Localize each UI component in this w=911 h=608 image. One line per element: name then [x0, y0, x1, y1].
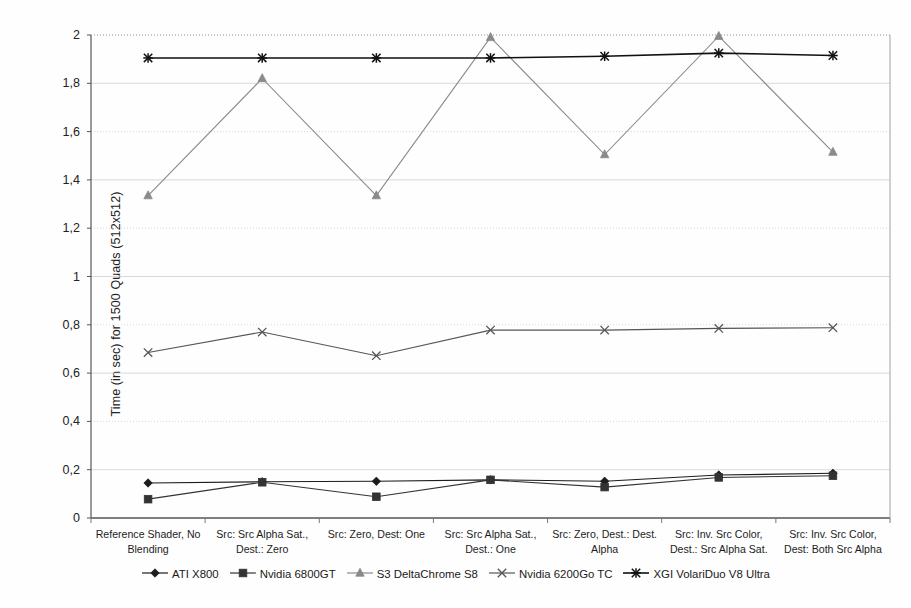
grid-lines	[91, 35, 890, 470]
marker-triangle	[258, 74, 266, 82]
legend-item-s3-deltachrome-s8[interactable]: S3 DeltaChrome S8	[341, 566, 483, 582]
x-axis-category-label: Reference Shader, NoBlending	[91, 527, 205, 556]
marker-square	[373, 493, 381, 501]
legend-label: S3 DeltaChrome S8	[376, 568, 478, 580]
x-axis-label-line: Src: Zero, Dest.: Dest.	[548, 527, 662, 542]
marker-diamond	[372, 477, 380, 485]
marker-diamond	[144, 479, 152, 487]
legend-label: Nvidia 6200Go TC	[518, 568, 613, 580]
marker-asterisk	[714, 48, 724, 58]
legend-item-nvidia-6200go-tc[interactable]: Nvidia 6200Go TC	[483, 566, 618, 582]
series-nvidia-6800gt	[144, 472, 836, 503]
x-axis-label-line: Src: Src Alpha Sat.,	[433, 527, 547, 542]
x-axis-label-line: Src: Zero, Dest: One	[319, 527, 433, 542]
x-axis-label-line: Dest: Both Src Alpha	[776, 542, 890, 557]
marker-asterisk	[632, 568, 642, 578]
legend-marker-asterisk-icon	[622, 566, 650, 582]
x-axis-label-line	[319, 542, 433, 557]
x-axis-label-line: Src: Inv. Src Color,	[662, 527, 776, 542]
chart-container: Time (in sec) for 1500 Quads (512x512) 0…	[0, 0, 911, 608]
x-axis-label-line: Src: Inv. Src Color,	[776, 527, 890, 542]
marker-square	[144, 495, 152, 503]
legend-marker-square-icon	[229, 566, 257, 582]
marker-asterisk	[486, 53, 496, 63]
marker-asterisk	[372, 53, 382, 63]
x-axis-label-line: Reference Shader, No	[91, 527, 205, 542]
x-axis-category-label: Src: Zero, Dest.: Dest.Alpha	[548, 527, 662, 556]
marker-square	[601, 483, 609, 491]
x-axis-category-label: Src: Src Alpha Sat.,Dest.: One	[433, 527, 547, 556]
marker-square	[258, 478, 266, 486]
x-axis-label-line: Dest.: Zero	[205, 542, 319, 557]
legend-item-ati-x800[interactable]: ATI X800	[136, 566, 224, 582]
x-axis-category-label: Src: Src Alpha Sat.,Dest.: Zero	[205, 527, 319, 556]
marker-diamond	[151, 569, 159, 577]
legend-item-xgi-volariduo-v8-ultra[interactable]: XGI VolariDuo V8 Ultra	[617, 566, 775, 582]
marker-asterisk	[257, 53, 267, 63]
marker-square	[715, 474, 723, 482]
legend-marker-x-star-icon	[488, 566, 516, 582]
x-axis-label-line: Blending	[91, 542, 205, 557]
legend-item-nvidia-6800gt[interactable]: Nvidia 6800GT	[224, 566, 341, 582]
marker-asterisk	[828, 51, 838, 61]
chart-plot-area	[0, 0, 911, 608]
marker-triangle	[355, 568, 363, 576]
marker-asterisk	[600, 51, 610, 61]
marker-square	[829, 472, 837, 480]
x-axis-label-line: Dest.: Src Alpha Sat.	[662, 542, 776, 557]
series-nvidia-6200go-tc	[144, 323, 837, 359]
marker-square	[239, 569, 247, 577]
legend-marker-triangle-icon	[346, 566, 374, 582]
chart-legend: ATI X800Nvidia 6800GTS3 DeltaChrome S8Nv…	[0, 566, 911, 582]
x-axis-category-label: Src: Inv. Src Color,Dest: Both Src Alpha	[776, 527, 890, 556]
marker-asterisk	[143, 53, 153, 63]
legend-label: Nvidia 6800GT	[259, 568, 336, 580]
marker-square	[487, 476, 495, 484]
legend-label: ATI X800	[171, 568, 219, 580]
legend-label: XGI VolariDuo V8 Ultra	[652, 568, 770, 580]
x-axis-category-label: Src: Inv. Src Color,Dest.: Src Alpha Sat…	[662, 527, 776, 556]
x-axis-category-label: Src: Zero, Dest: One	[319, 527, 433, 556]
x-axis-label-line: Dest.: One	[433, 542, 547, 557]
x-axis-label-line: Alpha	[548, 542, 662, 557]
x-axis-label-line: Src: Src Alpha Sat.,	[205, 527, 319, 542]
series-line	[148, 328, 833, 356]
marker-triangle	[486, 33, 494, 41]
marker-x-star	[372, 352, 380, 360]
legend-marker-diamond-icon	[141, 566, 169, 582]
